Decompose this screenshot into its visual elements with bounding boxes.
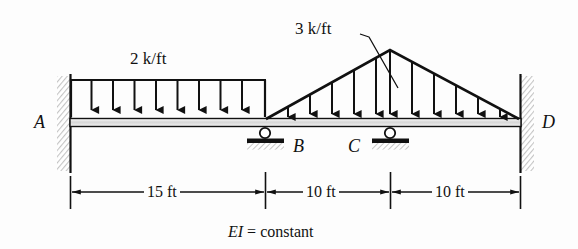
roller-support-c — [372, 128, 409, 150]
caption-ei-symbol: EI — [228, 223, 243, 240]
triangular-load-label: 3 k/ft — [295, 20, 331, 37]
uniform-load-ab — [70, 80, 266, 117]
caption-rest: = constant — [243, 223, 313, 240]
fixed-support-d — [521, 74, 535, 173]
figure-caption: EI = constant — [228, 224, 313, 240]
fixed-support-a — [57, 74, 71, 173]
triangular-load-bd — [266, 50, 519, 119]
node-label-a: A — [34, 113, 45, 131]
diagram-canvas — [0, 0, 578, 249]
node-label-d: D — [542, 113, 555, 131]
node-label-b: B — [293, 137, 304, 155]
roller-support-b — [247, 128, 284, 150]
beam-member — [70, 119, 521, 127]
dimension-label-cd: 10 ft — [432, 184, 468, 200]
beam-load-diagram: 2 k/ft 3 k/ft A B C D 15 ft 10 ft 10 ft … — [0, 0, 578, 249]
node-label-c: C — [348, 137, 360, 155]
dimension-label-bc: 10 ft — [303, 184, 339, 200]
load-leader-line — [360, 34, 398, 88]
dimension-label-ab: 15 ft — [144, 184, 180, 200]
uniform-load-label: 2 k/ft — [130, 50, 166, 67]
